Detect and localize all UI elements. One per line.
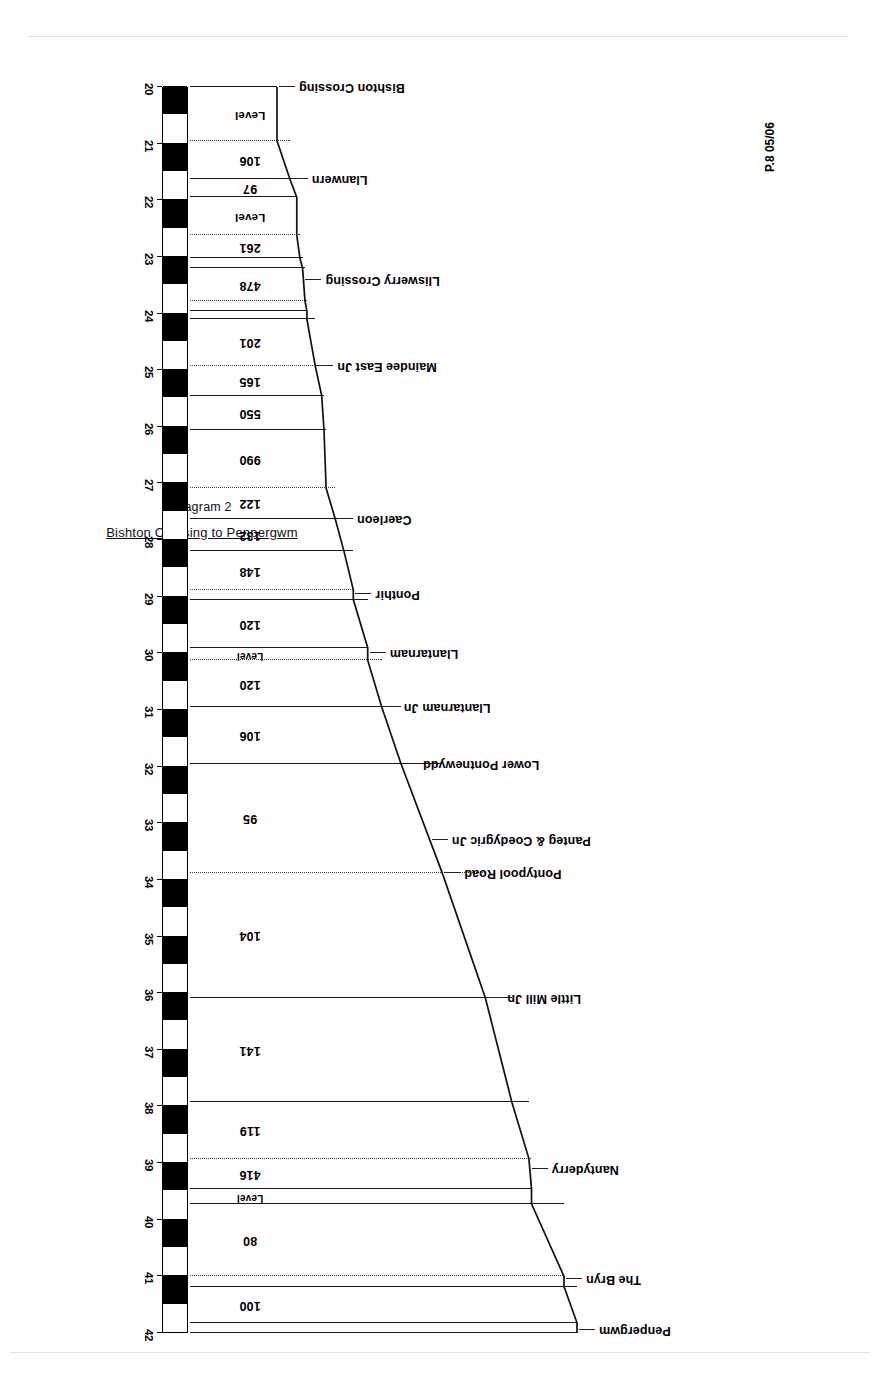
mileage-tick-label: 32 — [143, 760, 155, 778]
mileage-tick — [157, 1219, 162, 1220]
mileage-tick-label: 39 — [143, 1156, 155, 1174]
mileage-tick-label: 25 — [143, 363, 155, 381]
station-label: Ponthir — [375, 588, 571, 602]
mileage-tick — [157, 86, 162, 87]
mileage-tick — [157, 1105, 162, 1106]
mileage-tick — [157, 1049, 162, 1050]
station-label: Llanwern — [312, 173, 508, 187]
station-leader-line — [384, 706, 400, 707]
mileage-tick — [157, 1275, 162, 1276]
mileage-tick — [157, 426, 162, 427]
station-label: Lower Pontnewydd — [423, 758, 619, 772]
mileage-tick-label: 34 — [143, 873, 155, 891]
mileage-tick — [157, 709, 162, 710]
mileage-tick-label: 22 — [143, 193, 155, 211]
mileage-tick — [157, 652, 162, 653]
mileage-tick-label: 21 — [143, 137, 155, 155]
mileage-tick-label: 35 — [143, 930, 155, 948]
mileage-tick-label: 38 — [143, 1099, 155, 1117]
station-label: Bishton Crossing — [299, 81, 495, 95]
station-leader-line — [370, 652, 386, 653]
mileage-tick-label: 20 — [143, 80, 155, 98]
station-label: Llantarnam — [390, 647, 586, 661]
station-leader-line — [355, 594, 371, 595]
mileage-tick — [157, 766, 162, 767]
station-leader-line — [532, 1168, 548, 1169]
mileage-tick — [157, 256, 162, 257]
mileage-tick-label: 30 — [143, 646, 155, 664]
station-label: Panteg & Coedygric Jn — [452, 834, 648, 848]
mileage-tick-label: 31 — [143, 703, 155, 721]
mileage-tick-label: 24 — [143, 307, 155, 325]
station-leader-line — [305, 279, 321, 280]
mileage-tick — [157, 369, 162, 370]
mileage-tick — [157, 313, 162, 314]
mileage-tick — [157, 1332, 162, 1333]
station-leader-line — [579, 1329, 595, 1330]
station-leader-line — [566, 1278, 582, 1279]
station-label: Little Mill Jn — [507, 992, 703, 1006]
station-leader-line — [292, 178, 308, 179]
station-label: Nantyderry — [552, 1163, 748, 1177]
station-label: Llantarnam Jn — [404, 701, 600, 715]
mileage-tick — [157, 822, 162, 823]
mileage-tick — [157, 936, 162, 937]
station-label: The Bryn — [586, 1273, 782, 1287]
station-leader-line — [403, 763, 419, 764]
mileage-tick — [157, 1162, 162, 1163]
mileage-tick — [157, 143, 162, 144]
mileage-tick-label: 26 — [143, 420, 155, 438]
station-label: Penpergwm — [599, 1324, 795, 1338]
mileage-tick-label: 27 — [143, 476, 155, 494]
mileage-tick — [157, 482, 162, 483]
mileage-tick-label: 33 — [143, 816, 155, 834]
mileage-tick-label: 23 — [143, 250, 155, 268]
station-leader-line — [444, 872, 460, 873]
gradient-profile-diagram: Level10697Level261136478194Level20116555… — [0, 0, 877, 1381]
mileage-tick-label: 36 — [143, 986, 155, 1004]
mileage-tick-label: 41 — [143, 1269, 155, 1287]
mileage-tick — [157, 539, 162, 540]
mileage-tick-label: 28 — [143, 533, 155, 551]
mileage-tick-label: 42 — [143, 1326, 155, 1344]
station-leader-line — [337, 518, 353, 519]
mileage-tick — [157, 596, 162, 597]
mileage-tick-label: 37 — [143, 1043, 155, 1061]
station-label: Lliswerry Crossing — [325, 274, 521, 288]
station-label: Maindee East Jn — [337, 360, 533, 374]
mileage-tick-label: 40 — [143, 1213, 155, 1231]
mileage-tick — [157, 199, 162, 200]
station-leader-line — [432, 839, 448, 840]
station-label: Pontypool Road — [464, 867, 660, 881]
station-leader-line — [279, 86, 295, 87]
station-leader-line — [317, 365, 333, 366]
mileage-tick — [157, 879, 162, 880]
mileage-tick-label: 29 — [143, 590, 155, 608]
station-leader-line — [487, 997, 503, 998]
mileage-tick — [157, 992, 162, 993]
station-label: Caerleon — [357, 513, 553, 527]
